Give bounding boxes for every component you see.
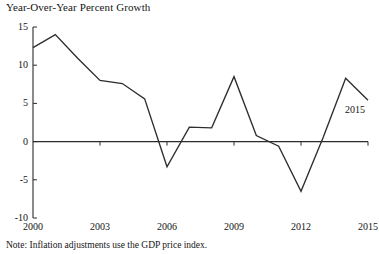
- x-tick-label: 2015: [348, 221, 379, 232]
- y-axis-ticks: [33, 27, 37, 218]
- x-axis-ticks: [100, 142, 368, 146]
- line-chart-plot: [0, 0, 379, 254]
- chart-figure: Year-Over-Year Percent Growth 151050-5-1…: [0, 0, 379, 254]
- x-tick-label: 2009: [214, 221, 254, 232]
- chart-note: Note: Inflation adjustments use the GDP …: [6, 240, 207, 250]
- y-tick-label: 5: [2, 97, 28, 108]
- chart-axes: [33, 27, 368, 218]
- x-tick-label: 2000: [13, 221, 53, 232]
- y-tick-label: 0: [2, 136, 28, 147]
- y-tick-label: -5: [2, 174, 28, 185]
- series-end-annotation: 2015: [345, 104, 365, 115]
- y-tick-label: 10: [2, 59, 28, 70]
- x-tick-label: 2012: [281, 221, 321, 232]
- growth-series-line: [33, 35, 368, 192]
- x-tick-label: 2006: [147, 221, 187, 232]
- y-tick-label: 15: [2, 21, 28, 32]
- x-tick-label: 2003: [80, 221, 120, 232]
